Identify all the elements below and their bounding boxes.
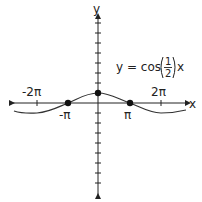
point-pi — [127, 100, 133, 106]
equation-numerator: 1 — [165, 56, 171, 67]
x-axis-label: x — [189, 97, 196, 111]
y-axis-label: y — [93, 2, 100, 16]
equation-label: y = cos 1 2 x — [116, 56, 184, 79]
tick-label-2pi: 2π — [151, 85, 166, 99]
tick-label-pi: π — [124, 108, 131, 122]
equation-prefix: y = cos — [116, 60, 161, 74]
point-peak — [95, 90, 101, 96]
equation-denominator: 2 — [165, 68, 171, 79]
equation-suffix: x — [177, 60, 184, 74]
cosine-graph: y x -2π -π π 2π y = cos 1 2 x — [0, 0, 202, 202]
tick-label-neg-2pi: -2π — [22, 85, 41, 99]
point-neg-pi — [65, 100, 71, 106]
tick-label-neg-pi: -π — [59, 108, 71, 122]
